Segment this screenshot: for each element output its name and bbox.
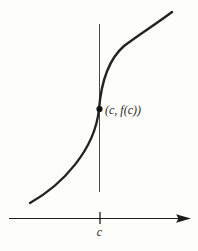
point-dot: [96, 106, 102, 112]
axis-tick-label-c: c: [97, 225, 103, 239]
point-label: (c, f(c)): [105, 103, 141, 117]
graph-canvas: (c, f(c)) c: [0, 0, 198, 251]
function-graph-figure: (c, f(c)) c: [0, 0, 198, 251]
